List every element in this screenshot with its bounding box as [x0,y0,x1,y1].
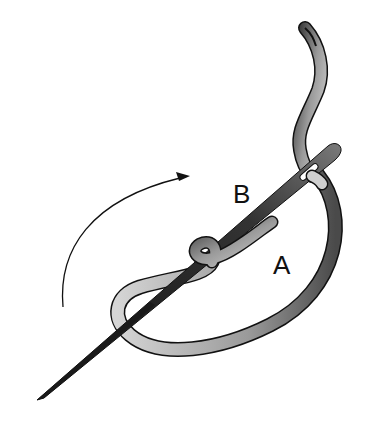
ribbon-tail [299,28,321,176]
ribbon-loop [118,175,336,349]
needle-shaft-front [37,302,155,400]
label-b: B [233,181,250,207]
illustration: B A [0,0,372,437]
label-a: A [273,252,290,278]
